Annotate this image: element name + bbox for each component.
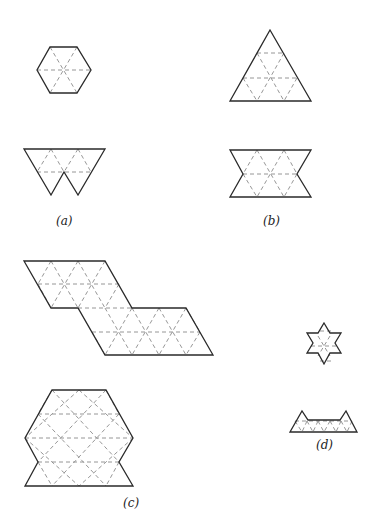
- panel-d-twin-peak: [290, 411, 357, 432]
- panel-c-stepped-parallelogram: [24, 261, 213, 355]
- panel-label-c: (c): [123, 496, 139, 510]
- panel-b-hourglass: [230, 150, 311, 197]
- panel-c-notched-hexagon: [25, 390, 133, 486]
- panel-label-d: (d): [316, 438, 333, 452]
- panel-d-star: [307, 323, 341, 364]
- panel-a-w-shape: [24, 149, 105, 195]
- panel-a-hexagon: [37, 47, 91, 93]
- panel-b-large-triangle: [230, 30, 311, 101]
- panel-label-b: (b): [263, 214, 280, 228]
- panel-label-a: (a): [56, 214, 73, 228]
